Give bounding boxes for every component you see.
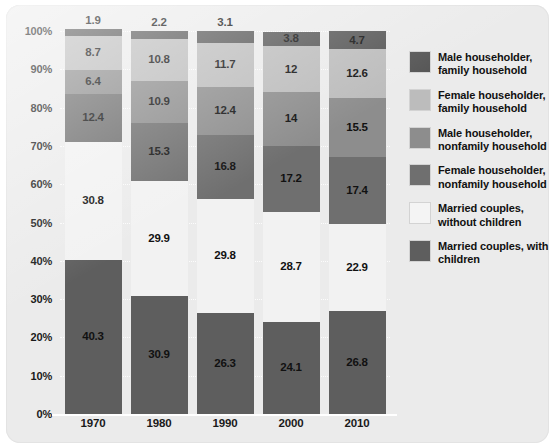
bar-segment[interactable]: 3.1: [197, 31, 254, 43]
bar-segment[interactable]: 6.4: [65, 70, 122, 95]
bar-segment-value-label: 11.7: [215, 59, 236, 71]
bar-segment-value-label: 29.8: [214, 250, 236, 262]
y-axis-tick-label: 70%: [31, 140, 52, 152]
legend: Male householder, family householdFemale…: [410, 51, 555, 278]
bar-segment[interactable]: 12.4: [197, 87, 254, 134]
y-axis-tick-label: 60%: [31, 178, 52, 190]
legend-item[interactable]: Male householder, family household: [410, 51, 555, 78]
legend-color-swatch: [410, 241, 430, 261]
bar-segment[interactable]: 24.1: [263, 322, 320, 414]
x-axis-tick-label: 1970: [81, 417, 106, 429]
y-axis-tick-label: 80%: [31, 102, 52, 114]
stacked-bar[interactable]: 1.98.76.412.430.840.3: [65, 29, 122, 414]
bar-segment-value-label: 17.2: [280, 173, 302, 185]
legend-item[interactable]: Female householder, nonfamily household: [410, 164, 555, 191]
y-axis-tick-label: 30%: [31, 293, 52, 305]
bar-segment-value-label: 29.9: [148, 233, 170, 245]
bar-segment-value-label: 24.1: [280, 362, 302, 374]
y-axis-tick-label: 90%: [31, 63, 52, 75]
bar-segment[interactable]: 30.8: [65, 142, 122, 260]
bar-segment[interactable]: 15.5: [329, 98, 386, 157]
x-axis-tick-label: 2010: [345, 417, 370, 429]
bar-segment[interactable]: 2.2: [131, 31, 188, 39]
bar-segment-value-label: 15.3: [148, 146, 170, 158]
y-axis-tick-label: 50%: [31, 217, 52, 229]
stacked-bar[interactable]: 3.8121417.228.724.1: [263, 32, 320, 414]
y-axis-tick-label: 40%: [31, 255, 52, 267]
bar-segment-value-label: 12: [285, 64, 297, 76]
bar-segment-value-label: 15.5: [346, 122, 368, 134]
legend-item-label: Female householder, nonfamily household: [438, 164, 555, 191]
bar-segment[interactable]: 17.4: [329, 157, 386, 224]
bar-segment-value-label: 30.8: [82, 195, 104, 207]
bar-segment[interactable]: 10.8: [131, 39, 188, 80]
bar-segment[interactable]: 40.3: [65, 260, 122, 414]
bar-segment[interactable]: 16.8: [197, 135, 254, 199]
bar-segment-value-label: 28.7: [280, 261, 302, 273]
y-axis-tick-label: 100%: [25, 25, 52, 37]
bar-segment-value-label: 3.1: [217, 17, 232, 29]
legend-item-label: Married couples, with children: [438, 240, 555, 267]
bar-segment-value-label: 8.7: [85, 47, 100, 59]
bar-segment[interactable]: 26.3: [197, 313, 254, 414]
axis-baseline: [52, 414, 397, 416]
legend-color-swatch: [410, 128, 430, 148]
stacked-bar[interactable]: 2.210.810.915.329.930.9: [131, 31, 188, 414]
bar-segment-value-label: 12.4: [82, 112, 104, 124]
bar-segment-value-label: 22.9: [346, 262, 368, 274]
bar-segment[interactable]: 1.9: [65, 29, 122, 36]
chart-panel: 0%10%20%30%40%50%60%70%80%90%100% 1.98.7…: [6, 5, 549, 443]
legend-color-swatch: [410, 90, 430, 110]
legend-item[interactable]: Married couples, with children: [410, 240, 555, 267]
bar-segment[interactable]: 8.7: [65, 36, 122, 69]
bar-segment[interactable]: 12: [263, 46, 320, 92]
bar-segment-value-label: 12.4: [214, 105, 236, 117]
bar-segment-value-label: 4.7: [349, 35, 364, 47]
bar-segment[interactable]: 12.6: [329, 49, 386, 97]
legend-item[interactable]: Female householder, family household: [410, 89, 555, 116]
bar-segment[interactable]: 14: [263, 92, 320, 146]
bar-segment-value-label: 1.9: [85, 15, 100, 27]
legend-color-swatch: [410, 165, 430, 185]
bar-segment[interactable]: 10.9: [131, 81, 188, 123]
bar-segment[interactable]: 4.7: [329, 31, 386, 49]
legend-item-label: Male householder, nonfamily household: [438, 127, 555, 154]
bar-segment-value-label: 14: [285, 113, 297, 125]
bar-segment-value-label: 16.8: [214, 161, 236, 173]
stacked-bar[interactable]: 3.111.712.416.829.826.3: [197, 31, 254, 414]
bar-segment-value-label: 17.4: [346, 185, 368, 197]
plot-canvas: 1.98.76.412.430.840.32.210.810.915.329.9…: [60, 31, 390, 414]
bar-segment-value-label: 6.4: [85, 76, 100, 88]
bar-segment[interactable]: 26.8: [329, 311, 386, 414]
legend-item[interactable]: Male householder, nonfamily household: [410, 127, 555, 154]
plot-area: 1.98.76.412.430.840.32.210.810.915.329.9…: [60, 31, 390, 414]
legend-color-swatch: [410, 203, 430, 223]
stacked-bar[interactable]: 4.712.615.517.422.926.8: [329, 31, 386, 414]
bar-segment[interactable]: 3.8: [263, 32, 320, 47]
y-axis: 0%10%20%30%40%50%60%70%80%90%100%: [6, 31, 56, 414]
y-axis-tick-label: 20%: [31, 331, 52, 343]
bar-segment-value-label: 40.3: [82, 331, 104, 343]
bar-segment[interactable]: 12.4: [65, 94, 122, 141]
x-axis: 19701980199020002010: [60, 417, 390, 437]
bar-segment-value-label: 26.3: [214, 358, 236, 370]
bar-segment-value-label: 10.9: [148, 96, 170, 108]
legend-color-swatch: [410, 52, 430, 72]
legend-item[interactable]: Married couples, without children: [410, 202, 555, 229]
legend-item-label: Male householder, family household: [438, 51, 555, 78]
bar-segment[interactable]: 30.9: [131, 296, 188, 414]
bar-segment[interactable]: 22.9: [329, 224, 386, 312]
bar-segment[interactable]: 11.7: [197, 43, 254, 88]
bar-segment-value-label: 2.2: [151, 17, 166, 29]
bar-segment[interactable]: 29.8: [197, 199, 254, 313]
bar-segment[interactable]: 28.7: [263, 212, 320, 322]
bar-segment-value-label: 26.8: [346, 357, 368, 369]
bar-segment-value-label: 10.8: [148, 54, 170, 66]
bar-segment[interactable]: 17.2: [263, 146, 320, 212]
bar-segment[interactable]: 29.9: [131, 181, 188, 296]
bar-segment[interactable]: 15.3: [131, 123, 188, 182]
legend-item-label: Female householder, family household: [438, 89, 555, 116]
y-axis-tick-label: 0%: [37, 408, 53, 420]
bar-segment-value-label: 12.6: [346, 68, 368, 80]
y-axis-tick-label: 10%: [31, 370, 52, 382]
